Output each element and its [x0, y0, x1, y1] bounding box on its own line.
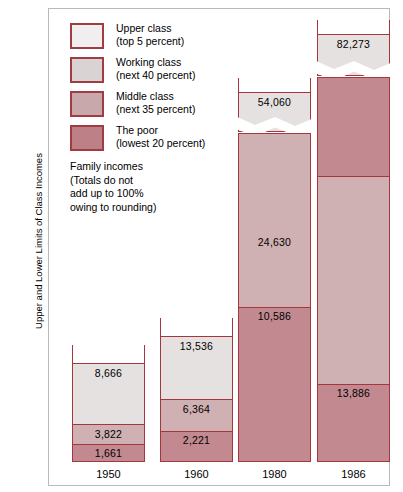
bar-1980: 54,060 24,630 10,586: [238, 0, 311, 492]
bar-1950-segment-the-poor: 1,661: [72, 444, 145, 462]
bar-1986-label-the-poor: 13,886: [318, 387, 389, 399]
x-axis-label-1980: 1980: [238, 468, 311, 480]
y-axis-title-line1: Upper and Lower Limits of Class Incomes: [33, 153, 44, 329]
bar-1960-label-middle-class: 6,364: [161, 403, 232, 415]
bar-1950-segment-working-class: 8,666: [72, 363, 145, 425]
bar-1986: 82,273 35,015 13,886: [317, 0, 390, 492]
bar-1960-segment-working-class: 13,536: [160, 336, 233, 400]
bar-1960-segment-the-poor: 2,221: [160, 431, 233, 462]
bar-1980-label-the-poor: 10,586: [239, 310, 310, 322]
bar-1980-segment-the-poor: 10,586: [238, 307, 311, 462]
bar-1960-label-the-poor: 2,221: [161, 434, 232, 446]
bar-1960-segment-upper-class: [160, 318, 233, 338]
bar-1986-segment-working-class: 82,273: [317, 34, 390, 76]
bar-1950-segment-middle-class: 3,822: [72, 424, 145, 445]
bar-1950-label-the-poor: 1,661: [73, 447, 144, 459]
bar-1960: 13,536 6,364 2,221: [160, 0, 233, 492]
bar-1980-segment-working-class: 54,060: [238, 92, 311, 132]
bar-1950-label-working-class: 8,666: [73, 367, 144, 379]
bar-1980-label-working-class: 54,060: [239, 96, 310, 108]
bar-1980-label-middle-class: 24,630: [239, 236, 310, 248]
bar-1986-segment-middle-class: [317, 77, 390, 177]
bar-1950-label-middle-class: 3,822: [73, 428, 144, 440]
bar-1960-segment-middle-class: 6,364: [160, 399, 233, 432]
bar-1986-segment-the-poor: 13,886: [317, 384, 390, 462]
x-axis-label-1986: 1986: [317, 468, 390, 480]
x-axis-label-1950: 1950: [72, 468, 145, 480]
bar-1960-label-working-class: 13,536: [161, 340, 232, 352]
bar-1980-segment-middle-class: 24,630: [238, 133, 311, 308]
bar-1950-segment-upper-class: [72, 345, 145, 365]
income-class-chart: Upper and Lower Limits of Class Incomes(…: [0, 0, 403, 492]
bar-1986-label-working-class: 82,273: [318, 38, 389, 50]
x-axis-label-1960: 1960: [160, 468, 233, 480]
bar-1986-segment-middle-class-body: 35,015: [317, 176, 390, 385]
bar-1950: 8,666 3,822 1,661: [72, 0, 145, 492]
